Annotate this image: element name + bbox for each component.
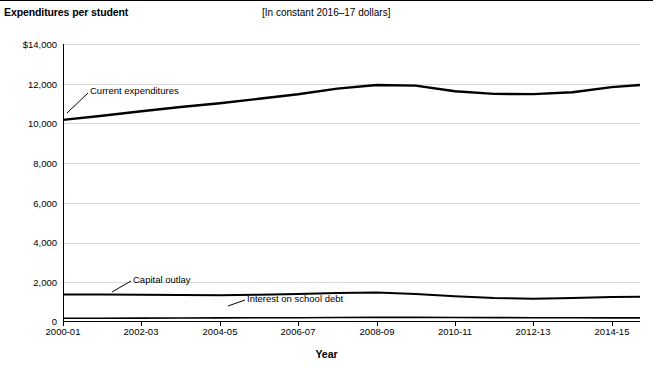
annotation-current-expenditures: Current expenditures <box>90 85 179 96</box>
units-note: [In constant 2016–17 dollars] <box>262 7 390 18</box>
ytick-label-2000: 2,000 <box>33 277 57 288</box>
annotation-interest-on-school-debt: Interest on school debt <box>247 293 343 304</box>
chart-page: Expenditures per student [In constant 20… <box>0 0 653 367</box>
xtick-label-2012-13: 2012-13 <box>503 326 563 337</box>
ytick-label-12000: 12,000 <box>28 79 57 90</box>
xtick-label-2010-11: 2010-11 <box>425 326 485 337</box>
xtick-label-2008-09: 2008-09 <box>347 326 407 337</box>
ytick-label-14000: $14,000 <box>23 39 57 50</box>
xtick-label-2014-15: 2014-15 <box>582 326 642 337</box>
top-divider <box>0 0 653 1</box>
page-title: Expenditures per student <box>4 6 128 18</box>
line-capital-outlay <box>63 293 640 299</box>
x-axis-title: Year <box>0 348 653 360</box>
xtick-label-2002-03: 2002-03 <box>111 326 171 337</box>
ytick-label-4000: 4,000 <box>33 237 57 248</box>
xtick-label-2006-07: 2006-07 <box>268 326 328 337</box>
ytick-label-10000: 10,000 <box>28 118 57 129</box>
annotation-capital-outlay: Capital outlay <box>133 274 191 285</box>
line-interest-on-school-debt <box>63 317 640 318</box>
ytick-label-8000: 8,000 <box>33 158 57 169</box>
ytick-label-6000: 6,000 <box>33 198 57 209</box>
xtick-label-2000-01: 2000-01 <box>33 326 93 337</box>
xtick-label-2004-05: 2004-05 <box>190 326 250 337</box>
